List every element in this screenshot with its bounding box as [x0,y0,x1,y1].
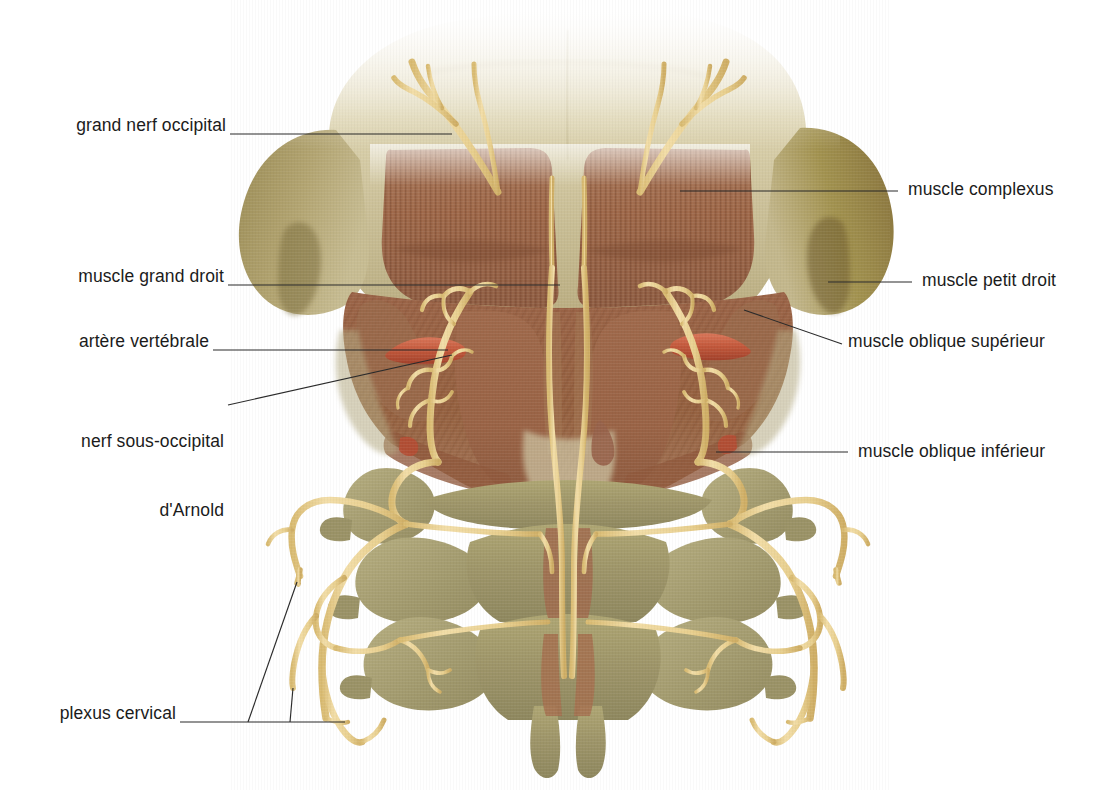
label-muscle-oblique-superieur: muscle oblique supérieur [848,330,1045,354]
label-nerf-arnold-line2: d'Arnold [0,499,224,522]
label-muscle-petit-droit: muscle petit droit [922,269,1056,293]
label-nerf-sous-occipital-arnold: nerf sous-occipital d'Arnold [0,384,224,569]
label-muscle-grand-droit: muscle grand droit [0,265,224,289]
anatomy-figure-page: grand nerf occipital muscle grand droit … [0,0,1118,811]
label-plexus-cervical: plexus cervical [0,702,176,726]
canvas-texture [230,0,890,790]
label-muscle-oblique-inferieur: muscle oblique inférieur [858,440,1045,464]
label-nerf-arnold-line1: nerf sous-occipital [0,430,224,453]
label-muscle-complexus: muscle complexus [908,178,1054,202]
label-grand-nerf-occipital: grand nerf occipital [0,114,226,138]
label-artere-vertebrale: artère vertébrale [0,330,209,354]
